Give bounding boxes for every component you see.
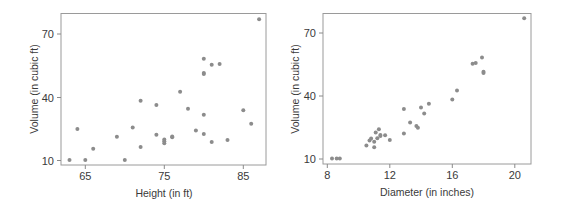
right-ytick-label: 40 xyxy=(304,90,316,102)
right-xtick-label: 20 xyxy=(509,169,521,181)
data-point xyxy=(139,145,143,149)
data-point xyxy=(83,158,87,162)
data-point xyxy=(75,127,79,131)
data-point xyxy=(338,157,342,161)
data-point xyxy=(257,17,261,21)
data-point xyxy=(249,122,253,126)
data-point xyxy=(210,140,214,144)
data-point xyxy=(210,63,214,67)
data-point xyxy=(372,145,376,149)
right-xtick-label: 16 xyxy=(446,169,458,181)
data-point xyxy=(378,133,382,137)
data-point xyxy=(419,106,423,110)
left-data-points xyxy=(68,17,262,162)
data-point xyxy=(383,133,387,137)
left-plot: 70 40 10 65 75 85 Height (in ft) Volume … xyxy=(28,14,266,200)
data-point xyxy=(372,140,376,144)
data-point xyxy=(402,107,406,111)
data-point xyxy=(480,56,484,60)
data-point xyxy=(68,158,72,162)
left-xtick-label: 65 xyxy=(79,170,91,182)
left-ytick-label: 70 xyxy=(42,28,54,40)
data-point xyxy=(450,98,454,102)
data-point xyxy=(374,131,378,135)
data-point xyxy=(139,99,143,103)
data-point xyxy=(154,133,158,137)
left-y-axis-title: Volume (in cubic ft) xyxy=(28,44,40,133)
left-xtick-label: 75 xyxy=(158,170,170,182)
figure: 70 40 10 65 75 85 Height (in ft) Volume … xyxy=(0,0,561,210)
scatter-figure: 70 40 10 65 75 85 Height (in ft) Volume … xyxy=(0,0,561,210)
data-point xyxy=(522,16,526,20)
right-ytick-label: 70 xyxy=(304,27,316,39)
data-point xyxy=(455,89,459,93)
data-point xyxy=(474,61,478,65)
data-point xyxy=(131,125,135,129)
left-ytick-label: 10 xyxy=(42,155,54,167)
data-point xyxy=(154,103,158,107)
left-ytick-label: 40 xyxy=(42,92,54,104)
data-point xyxy=(422,111,426,115)
data-point xyxy=(377,127,381,131)
data-point xyxy=(226,138,230,142)
data-point xyxy=(241,108,245,112)
data-point xyxy=(162,139,166,143)
data-point xyxy=(202,72,206,76)
data-point xyxy=(388,138,392,142)
data-point xyxy=(218,62,222,66)
data-point xyxy=(416,126,420,130)
right-plot: 70 40 10 8 12 16 20 Diameter (in inches)… xyxy=(289,14,531,199)
data-point xyxy=(170,135,174,139)
data-point xyxy=(202,57,206,61)
data-point xyxy=(202,132,206,136)
right-plot-frame xyxy=(323,14,531,165)
data-point xyxy=(91,147,95,151)
right-data-points xyxy=(330,16,526,160)
left-xtick-label: 85 xyxy=(237,170,249,182)
data-point xyxy=(369,137,373,141)
right-ytick-label: 10 xyxy=(304,153,316,165)
data-point xyxy=(186,107,190,111)
data-point xyxy=(115,135,119,139)
right-xtick-label: 12 xyxy=(384,169,396,181)
data-point xyxy=(427,102,431,106)
data-point xyxy=(178,90,182,94)
data-point xyxy=(408,121,412,125)
data-point xyxy=(330,156,334,160)
right-x-axis-title: Diameter (in inches) xyxy=(380,186,474,198)
data-point xyxy=(482,71,486,75)
left-x-axis-title: Height (in ft) xyxy=(135,187,192,199)
right-xtick-label: 8 xyxy=(324,169,330,181)
data-point xyxy=(364,144,368,148)
data-point xyxy=(402,131,406,135)
data-point xyxy=(202,113,206,117)
right-y-axis-title: Volume (in cubic ft) xyxy=(289,44,301,133)
data-point xyxy=(123,158,127,162)
data-point xyxy=(194,129,198,133)
